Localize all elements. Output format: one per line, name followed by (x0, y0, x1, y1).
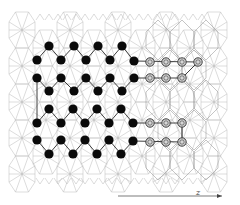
occupied-site (32, 73, 41, 82)
occupied-site (129, 56, 138, 65)
occupied-site (117, 41, 126, 50)
occupied-site (128, 118, 137, 127)
occupied-site (80, 118, 89, 127)
vacant-site (178, 138, 186, 146)
z-axis-arrow (118, 194, 222, 198)
occupied-site (116, 104, 125, 113)
occupied-site (56, 55, 65, 64)
vacant-site (162, 138, 170, 146)
z-axis-label: z (196, 188, 200, 197)
vacant-site (178, 74, 186, 82)
polyhedron-outline (146, 20, 170, 60)
occupied-site (44, 149, 53, 158)
occupied-site (104, 135, 113, 144)
occupied-site (69, 41, 78, 50)
occupied-site (105, 55, 114, 64)
occupied-site (128, 136, 137, 145)
occupied-site (44, 86, 53, 95)
occupied-site (104, 118, 113, 127)
occupied-site (56, 118, 65, 127)
vacant-site (162, 58, 170, 66)
occupied-site (56, 73, 65, 82)
vacant-site (162, 74, 170, 82)
vacant-site (162, 119, 170, 127)
vacant-site (146, 74, 154, 82)
occupied-site (81, 55, 90, 64)
occupied-site (32, 55, 41, 64)
occupied-site (92, 104, 101, 113)
vacant-site (178, 58, 186, 66)
vacant-site (194, 58, 202, 66)
occupied-site (68, 149, 77, 158)
vacant-site (178, 119, 186, 127)
occupied-site (92, 149, 101, 158)
occupied-site (105, 73, 114, 82)
occupied-site (81, 73, 90, 82)
vacant-site (146, 58, 154, 66)
occupied-site (68, 104, 77, 113)
occupied-site (129, 73, 138, 82)
occupied-site (32, 135, 41, 144)
occupied-site (56, 135, 65, 144)
occupied-site (44, 41, 53, 50)
occupied-site (117, 86, 126, 95)
lattice-figure: z (0, 0, 240, 205)
occupied-site (32, 118, 41, 127)
polyhedron-outline (194, 20, 218, 60)
occupied-site (93, 41, 102, 50)
occupied-site (69, 86, 78, 95)
polyhedron-outline (170, 20, 194, 60)
vacant-site (146, 119, 154, 127)
occupied-site (80, 135, 89, 144)
polyhedra-wireframe (9, 12, 227, 192)
vacant-site (146, 138, 154, 146)
occupied-site (44, 104, 53, 113)
occupied-site (116, 149, 125, 158)
lattice-diagram (0, 0, 240, 205)
occupied-site (93, 86, 102, 95)
